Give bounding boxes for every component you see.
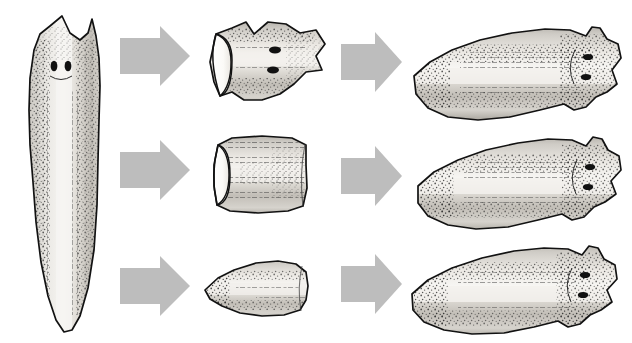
- planarian-regeneration-diagram: [0, 0, 632, 343]
- figure-canvas: [0, 0, 632, 343]
- middle-fragment: [210, 132, 315, 218]
